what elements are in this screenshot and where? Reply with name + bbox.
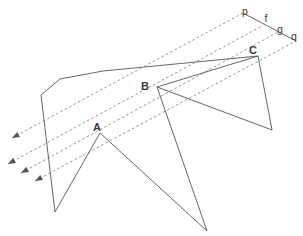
geometry-figure-canvas: A B C p f g q — [0, 0, 303, 236]
line-label-f: f — [265, 12, 268, 24]
vertex-label-a: A — [93, 121, 101, 133]
line-label-q: q — [291, 30, 297, 42]
line-label-p: p — [242, 5, 248, 17]
vertex-label-b: B — [141, 80, 149, 92]
line-label-g: g — [277, 23, 283, 35]
vertex-label-c: C — [249, 44, 257, 56]
